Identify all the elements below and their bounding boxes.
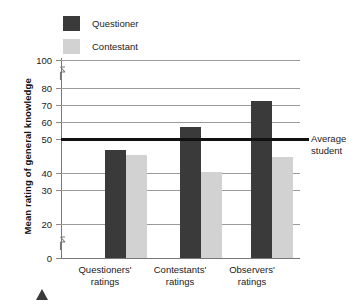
x-axis-line [61, 258, 300, 259]
x-category-label-questioners-line2: ratings [66, 276, 144, 288]
bar-chart-figure: Questioner Contestant Mean rating of gen… [0, 0, 355, 307]
gridline-80 [61, 88, 300, 89]
bar-contestant-observers-ratings [272, 157, 293, 258]
x-category-label-contestants-line1: Contestants' [141, 264, 219, 276]
y-tick-80 [56, 88, 61, 89]
y-tick-label-100: 100 [36, 55, 52, 66]
x-category-label-observers-line2: ratings [213, 276, 291, 288]
x-category-label-observers-line1: Observers' [213, 264, 291, 276]
bar-questioner-observers-ratings [251, 101, 272, 258]
legend-item-contestant: Contestant [63, 36, 138, 56]
plot-area [61, 60, 300, 258]
y-tick-40 [56, 173, 61, 174]
x-category-label-questioners-line1: Questioners' [66, 264, 144, 276]
page-triangle-marker-icon [36, 289, 48, 300]
bar-questioner-contestants-ratings [180, 127, 201, 258]
legend-swatch-questioner [63, 16, 80, 31]
average-student-label-line2: student [311, 145, 346, 157]
bar-contestant-contestants-ratings [201, 172, 222, 258]
y-axis-break-lower [55, 236, 68, 251]
y-tick-label-80: 80 [41, 83, 52, 94]
y-tick-20 [56, 224, 61, 225]
y-tick-60 [56, 122, 61, 123]
y-tick-label-50: 50 [41, 134, 52, 145]
bar-contestant-questioners-ratings [126, 155, 147, 258]
legend-label-contestant: Contestant [92, 41, 138, 52]
y-tick-100 [56, 60, 61, 61]
average-student-reference-line [61, 138, 309, 141]
y-tick-label-0: 0 [47, 253, 52, 264]
x-category-label-contestants: Contestants' ratings [141, 264, 219, 287]
y-axis-tick-labels: 100 80 70 60 50 40 30 20 0 [0, 0, 61, 307]
legend-label-questioner: Questioner [92, 18, 138, 29]
y-tick-label-40: 40 [41, 168, 52, 179]
bar-questioner-questioners-ratings [105, 150, 126, 258]
y-tick-label-70: 70 [41, 100, 52, 111]
y-tick-0 [56, 258, 61, 259]
y-tick-70 [56, 105, 61, 106]
average-student-label: Average student [311, 133, 346, 156]
y-tick-label-20: 20 [41, 219, 52, 230]
chart-legend: Questioner Contestant [63, 13, 138, 59]
y-axis-break-upper [55, 66, 68, 81]
legend-swatch-contestant [63, 39, 80, 54]
x-category-label-observers: Observers' ratings [213, 264, 291, 287]
y-tick-label-30: 30 [41, 185, 52, 196]
y-tick-label-60: 60 [41, 117, 52, 128]
gridline-100 [61, 60, 300, 61]
average-student-label-line1: Average [311, 133, 346, 145]
x-category-label-contestants-line2: ratings [141, 276, 219, 288]
x-category-label-questioners: Questioners' ratings [66, 264, 144, 287]
y-tick-30 [56, 190, 61, 191]
legend-item-questioner: Questioner [63, 13, 138, 33]
